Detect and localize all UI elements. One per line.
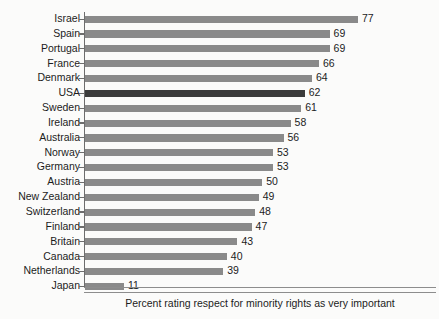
axis-tick-mark [79,108,84,109]
bar-row: Denmark64 [0,71,439,86]
axis-tick-mark [79,63,84,64]
axis-tick-mark [79,182,84,183]
bar-value-label: 43 [241,235,253,248]
bar-category-label: Germany [0,160,80,173]
axis-tick-mark [79,241,84,242]
value-axis-baseline [84,287,436,288]
bar-value-label: 39 [227,264,239,277]
bar-value-label: 69 [334,27,346,40]
bar-category-label: Portugal [0,42,80,55]
bar-value-label: 77 [362,12,374,25]
bar-row: Finland47 [0,220,439,235]
bar-highlighted [85,90,305,97]
bar [85,253,227,260]
axis-tick-mark [79,271,84,272]
bar-row: Sweden61 [0,101,439,116]
bar-category-label: Australia [0,131,80,144]
caption-divider-rule [84,292,436,293]
bar [85,60,319,67]
bar-value-label: 64 [316,71,328,84]
bar-category-label: Spain [0,27,80,40]
bar-row: France66 [0,57,439,72]
bar-row: Austria50 [0,175,439,190]
axis-tick-mark [79,48,84,49]
bar [85,30,330,37]
bar [85,194,259,201]
axis-tick-mark [79,256,84,257]
axis-tick-mark [79,33,84,34]
bar [85,209,255,216]
bar-value-label: 50 [266,175,278,188]
bar-row: Canada40 [0,250,439,265]
axis-tick-mark [79,152,84,153]
bar-category-label: Japan [0,279,80,292]
bar [85,149,273,156]
bar-value-label: 53 [277,160,289,173]
axis-tick-mark [79,93,84,94]
bar-rows: Israel77Spain69Portugal69France66Denmark… [0,12,439,294]
bar [85,75,312,82]
bar-value-label: 56 [288,131,300,144]
bar-row: Germany53 [0,160,439,175]
bar [85,45,330,52]
axis-tick-mark [79,226,84,227]
bar [85,238,237,245]
bar-category-label: Ireland [0,116,80,129]
axis-tick-mark [79,197,84,198]
bar-row: Israel77 [0,12,439,27]
bar [85,268,223,275]
bar-row: USA62 [0,86,439,101]
bar [85,105,301,112]
bar-row: Australia56 [0,131,439,146]
axis-tick-mark [79,137,84,138]
bar-category-label: France [0,57,80,70]
axis-tick-mark [79,78,84,79]
bar [85,179,262,186]
bar-category-label: Netherlands [0,264,80,277]
bar-category-label: Finland [0,220,80,233]
bar-row: Spain69 [0,27,439,42]
bar-category-label: USA [0,86,80,99]
bar-value-label: 53 [277,146,289,159]
bar-category-label: New Zealand [0,190,80,203]
axis-tick-mark [79,122,84,123]
bar-row: New Zealand49 [0,190,439,205]
bar-value-label: 11 [128,279,139,292]
axis-tick-mark [79,211,84,212]
bar-chart: Israel77Spain69Portugal69France66Denmark… [0,0,439,319]
bar-value-label: 48 [259,205,271,218]
bar-category-label: Switzerland [0,205,80,218]
bar-row: Norway53 [0,146,439,161]
bar-row: Netherlands39 [0,264,439,279]
bar-value-label: 47 [256,220,268,233]
axis-tick-mark [79,19,84,20]
bar-row: Switzerland48 [0,205,439,220]
bar [85,134,284,141]
bar-value-label: 49 [263,190,275,203]
bar-category-label: Austria [0,175,80,188]
bar-value-label: 66 [323,57,335,70]
bar-value-label: 40 [231,250,243,263]
bar-category-label: Canada [0,250,80,263]
bar [85,16,358,23]
bar-row: Ireland58 [0,116,439,131]
axis-tick-mark [79,167,84,168]
bar-row: Britain43 [0,235,439,250]
bar-value-label: 58 [295,116,307,129]
bar-category-label: Israel [0,12,80,25]
bar-value-label: 62 [309,86,321,99]
chart-caption: Percent rating respect for minority righ… [84,297,436,309]
bar-value-label: 61 [305,101,317,114]
bar-category-label: Sweden [0,101,80,114]
bar [85,164,273,171]
bar-category-label: Norway [0,146,80,159]
bar-category-label: Denmark [0,71,80,84]
bar [85,223,252,230]
bar-row: Portugal69 [0,42,439,57]
bar-value-label: 69 [334,42,346,55]
bar [85,120,291,127]
bar-category-label: Britain [0,235,80,248]
